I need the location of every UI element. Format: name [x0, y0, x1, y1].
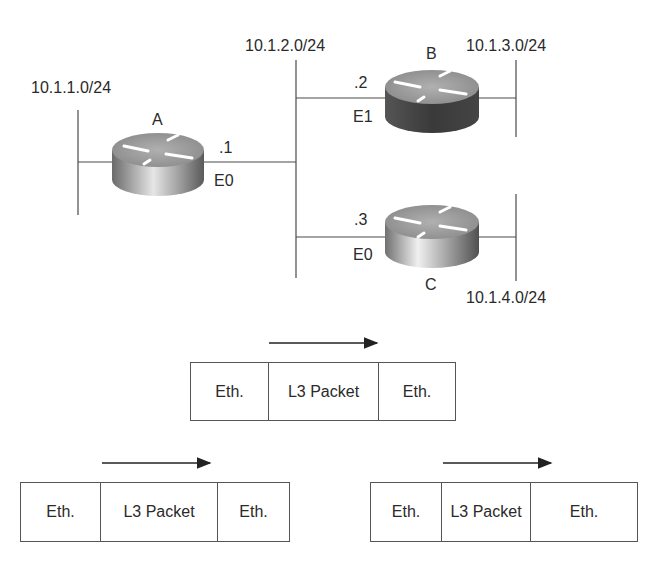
network-label-lan-b: 10.1.3.0/24	[466, 37, 546, 55]
frame-header-cell: Eth.	[191, 363, 269, 420]
frame-packet-cell: L3 Packet	[269, 363, 379, 420]
frame-header-cell: Eth.	[371, 483, 442, 541]
router-a-host: .1	[219, 139, 232, 157]
frame-left: Eth. L3 Packet Eth.	[20, 482, 290, 542]
frame-trailer-cell: Eth.	[531, 483, 637, 541]
segment-lan-a	[78, 110, 114, 215]
segment-lan-shared	[296, 60, 387, 278]
frame-packet-cell: L3 Packet	[442, 483, 531, 541]
frame-packet-cell: L3 Packet	[101, 483, 218, 541]
router-b-host: .2	[354, 74, 367, 92]
router-c-icon[interactable]	[385, 205, 479, 268]
router-a-interface: E0	[214, 172, 234, 190]
router-c-host: .3	[354, 211, 367, 229]
segment-lan-b	[476, 60, 516, 137]
router-b-interface: E1	[353, 108, 373, 126]
router-c-name: C	[425, 276, 437, 294]
segment-lan-c	[476, 194, 516, 281]
frame-trailer-cell: Eth.	[218, 483, 289, 541]
frame-middle: Eth. L3 Packet Eth.	[190, 362, 456, 421]
router-a-icon[interactable]	[112, 133, 204, 196]
network-label-lan-a: 10.1.1.0/24	[31, 79, 111, 97]
frame-right: Eth. L3 Packet Eth.	[370, 482, 638, 542]
router-b-name: B	[426, 45, 437, 63]
network-label-lan-c: 10.1.4.0/24	[466, 289, 546, 307]
frame-trailer-cell: Eth.	[379, 363, 455, 420]
router-c-interface: E0	[353, 246, 373, 264]
network-label-lan-shared: 10.1.2.0/24	[245, 37, 325, 55]
router-a-name: A	[152, 111, 163, 129]
router-b-icon[interactable]	[385, 70, 479, 133]
frame-header-cell: Eth.	[21, 483, 101, 541]
